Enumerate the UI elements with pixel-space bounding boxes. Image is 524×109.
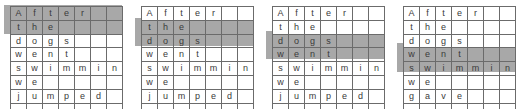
empty-cell[interactable] bbox=[273, 103, 289, 109]
letter-cell[interactable]: e bbox=[174, 20, 190, 34]
letter-cell[interactable]: m bbox=[75, 62, 91, 76]
empty-cell[interactable] bbox=[321, 75, 337, 89]
letter-cell[interactable]: p bbox=[190, 89, 206, 103]
letter-cell[interactable]: g bbox=[174, 34, 190, 48]
empty-cell[interactable] bbox=[500, 75, 516, 89]
letter-cell[interactable]: f bbox=[158, 7, 174, 21]
empty-cell[interactable] bbox=[75, 103, 91, 109]
letter-cell[interactable]: r bbox=[75, 7, 91, 21]
empty-cell[interactable] bbox=[238, 7, 254, 21]
empty-cell[interactable] bbox=[484, 48, 500, 62]
letter-cell[interactable]: g bbox=[436, 34, 452, 48]
letter-cell[interactable]: A bbox=[273, 7, 289, 21]
empty-cell[interactable] bbox=[337, 103, 353, 109]
letter-cell[interactable]: g bbox=[43, 34, 59, 48]
letter-cell[interactable]: h bbox=[289, 20, 305, 34]
letter-cell[interactable]: s bbox=[273, 62, 289, 76]
empty-cell[interactable] bbox=[321, 20, 337, 34]
letter-cell[interactable]: s bbox=[321, 34, 337, 48]
empty-cell[interactable] bbox=[369, 75, 385, 89]
empty-cell[interactable] bbox=[91, 48, 107, 62]
empty-cell[interactable] bbox=[337, 48, 353, 62]
empty-cell[interactable] bbox=[75, 20, 91, 34]
letter-cell[interactable]: m bbox=[59, 62, 75, 76]
empty-cell[interactable] bbox=[206, 48, 222, 62]
letter-cell[interactable]: m bbox=[206, 62, 222, 76]
letter-cell[interactable]: e bbox=[206, 89, 222, 103]
letter-cell[interactable]: o bbox=[27, 34, 43, 48]
letter-cell[interactable]: i bbox=[91, 62, 107, 76]
letter-cell[interactable]: s bbox=[59, 34, 75, 48]
letter-cell[interactable]: j bbox=[11, 89, 27, 103]
empty-cell[interactable] bbox=[206, 34, 222, 48]
letter-cell[interactable]: d bbox=[142, 34, 158, 48]
letter-cell[interactable]: e bbox=[420, 48, 436, 62]
letter-cell[interactable]: t bbox=[321, 48, 337, 62]
letter-cell[interactable]: f bbox=[289, 7, 305, 21]
letter-cell[interactable]: p bbox=[59, 89, 75, 103]
letter-cell[interactable]: t bbox=[11, 20, 27, 34]
empty-cell[interactable] bbox=[468, 103, 484, 109]
letter-cell[interactable]: s bbox=[190, 34, 206, 48]
letter-cell[interactable]: n bbox=[500, 62, 516, 76]
letter-cell[interactable]: d bbox=[353, 89, 369, 103]
letter-cell[interactable]: i bbox=[174, 62, 190, 76]
letter-cell[interactable]: e bbox=[436, 20, 452, 34]
letter-cell[interactable]: i bbox=[353, 62, 369, 76]
letter-cell[interactable]: w bbox=[404, 75, 420, 89]
letter-cell[interactable]: m bbox=[305, 89, 321, 103]
letter-cell[interactable]: i bbox=[222, 62, 238, 76]
letter-cell[interactable]: r bbox=[468, 7, 484, 21]
empty-cell[interactable] bbox=[337, 34, 353, 48]
letter-cell[interactable]: e bbox=[305, 20, 321, 34]
letter-cell[interactable]: j bbox=[142, 89, 158, 103]
empty-cell[interactable] bbox=[353, 103, 369, 109]
letter-cell[interactable]: e bbox=[190, 7, 206, 21]
letter-cell[interactable]: n bbox=[107, 62, 123, 76]
empty-cell[interactable] bbox=[468, 34, 484, 48]
letter-cell[interactable]: m bbox=[174, 89, 190, 103]
letter-cell[interactable]: s bbox=[11, 62, 27, 76]
empty-cell[interactable] bbox=[91, 34, 107, 48]
empty-cell[interactable] bbox=[91, 20, 107, 34]
letter-cell[interactable]: r bbox=[337, 7, 353, 21]
letter-cell[interactable]: u bbox=[289, 89, 305, 103]
letter-cell[interactable]: i bbox=[43, 62, 59, 76]
letter-cell[interactable]: m bbox=[468, 62, 484, 76]
letter-cell[interactable]: e bbox=[452, 89, 468, 103]
empty-cell[interactable] bbox=[107, 89, 123, 103]
letter-cell[interactable]: w bbox=[11, 75, 27, 89]
empty-cell[interactable] bbox=[500, 89, 516, 103]
letter-cell[interactable]: h bbox=[27, 20, 43, 34]
empty-cell[interactable] bbox=[369, 20, 385, 34]
letter-cell[interactable]: e bbox=[27, 75, 43, 89]
empty-cell[interactable] bbox=[436, 103, 452, 109]
empty-cell[interactable] bbox=[468, 20, 484, 34]
letter-cell[interactable]: t bbox=[305, 7, 321, 21]
empty-cell[interactable] bbox=[353, 7, 369, 21]
empty-cell[interactable] bbox=[75, 48, 91, 62]
empty-cell[interactable] bbox=[190, 103, 206, 109]
empty-cell[interactable] bbox=[222, 48, 238, 62]
letter-cell[interactable]: f bbox=[27, 7, 43, 21]
empty-cell[interactable] bbox=[190, 75, 206, 89]
letter-cell[interactable]: e bbox=[27, 48, 43, 62]
letter-cell[interactable]: r bbox=[206, 7, 222, 21]
letter-cell[interactable]: w bbox=[142, 48, 158, 62]
empty-cell[interactable] bbox=[353, 20, 369, 34]
empty-cell[interactable] bbox=[369, 7, 385, 21]
empty-cell[interactable] bbox=[238, 20, 254, 34]
empty-cell[interactable] bbox=[222, 34, 238, 48]
letter-cell[interactable]: e bbox=[420, 75, 436, 89]
empty-cell[interactable] bbox=[174, 75, 190, 89]
empty-cell[interactable] bbox=[420, 103, 436, 109]
letter-cell[interactable]: t bbox=[43, 7, 59, 21]
empty-cell[interactable] bbox=[369, 48, 385, 62]
empty-cell[interactable] bbox=[238, 75, 254, 89]
empty-cell[interactable] bbox=[107, 7, 123, 21]
letter-cell[interactable]: t bbox=[436, 7, 452, 21]
empty-cell[interactable] bbox=[500, 34, 516, 48]
empty-cell[interactable] bbox=[59, 20, 75, 34]
empty-cell[interactable] bbox=[238, 89, 254, 103]
empty-cell[interactable] bbox=[468, 75, 484, 89]
